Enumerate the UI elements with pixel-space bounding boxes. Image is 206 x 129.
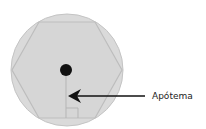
center-point (60, 64, 72, 76)
apothem-diagram: Apótema (0, 0, 206, 129)
apothem-label: Apótema (152, 91, 193, 101)
